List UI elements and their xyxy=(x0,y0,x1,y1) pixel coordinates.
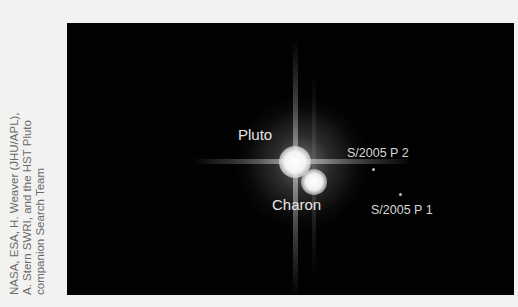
image-credit: NASA, ESA, H. Weaver (JHU/APL), A. Stern… xyxy=(8,95,47,295)
moon-p2 xyxy=(372,168,375,171)
label-p1: S/2005 P 1 xyxy=(371,203,433,217)
credit-line: NASA, ESA, H. Weaver (JHU/APL), xyxy=(8,95,21,295)
label-pluto: Pluto xyxy=(238,126,272,143)
charon-body xyxy=(301,169,327,195)
label-p2: S/2005 P 2 xyxy=(347,146,409,160)
credit-line: A. Stern SWRI, and the HST Pluto xyxy=(21,95,34,295)
credit-line: companion Search Team xyxy=(34,95,47,295)
moon-p1 xyxy=(399,193,402,196)
pluto-system-photo: Pluto Charon S/2005 P 2 S/2005 P 1 xyxy=(67,23,514,295)
label-charon: Charon xyxy=(272,196,321,213)
